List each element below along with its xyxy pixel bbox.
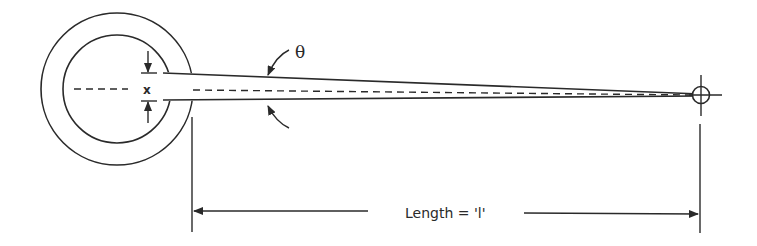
pointer <box>163 72 700 101</box>
angle-arrow-top <box>268 50 289 75</box>
gap-label: x <box>143 83 151 97</box>
target-crosshair-icon <box>689 75 722 116</box>
length-dimension: Length = 'l' <box>194 205 698 221</box>
length-arrow-right <box>524 213 698 214</box>
length-label: Length = 'l' <box>405 205 486 221</box>
pointer-length-diagram: x θ Length = 'l' <box>0 0 757 246</box>
angle-label: θ <box>295 42 305 62</box>
gap-dimension: x <box>141 51 157 123</box>
angle-arrow-bottom <box>268 106 289 128</box>
